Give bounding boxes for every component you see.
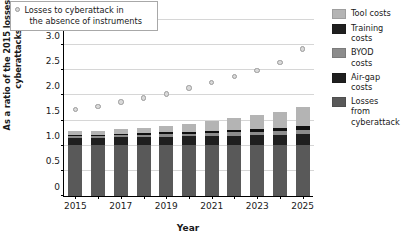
bar-segment-losses (273, 145, 287, 196)
scatter-point (232, 74, 237, 79)
legend-item: Tool costs (332, 8, 407, 19)
legend-label-line2: costs (351, 82, 372, 92)
scatter-point (118, 99, 123, 104)
chart-legend: Tool costsTrainingcostsBYODcostsAir-gapc… (332, 8, 407, 131)
bar-2018 (137, 128, 151, 196)
inline-legend-line2: the absence of instruments (29, 16, 142, 27)
legend-label-line1: BYOD (351, 47, 373, 57)
y-axis-tick-label: 2.5 (46, 56, 60, 66)
legend-swatch-icon (332, 24, 346, 34)
scatter-point (164, 91, 169, 96)
bar-2016 (91, 131, 105, 196)
bar-segment-airgap (68, 138, 82, 145)
x-axis-tick-mark (121, 196, 122, 199)
bar-2015 (68, 131, 82, 196)
legend-label-line2: costs (351, 33, 372, 43)
y-axis-tick-label: 0.5 (46, 156, 60, 166)
legend-item-label: Air-gapcosts (351, 72, 380, 92)
bar-segment-tool (205, 121, 219, 131)
bar-segment-airgap (273, 135, 287, 145)
bar-segment-losses (68, 145, 82, 196)
bar-segment-airgap (182, 136, 196, 145)
y-axis-tick-label: 2.0 (46, 81, 60, 91)
bar-segment-losses (114, 145, 128, 196)
bar-segment-airgap (227, 136, 241, 145)
x-axis-tick-mark (98, 196, 99, 199)
bar-segment-tool (250, 115, 264, 129)
legend-label-line3: cyberattack (351, 117, 400, 127)
bar-segment-airgap (296, 134, 310, 145)
legend-label-line2: costs (351, 58, 372, 68)
bar-segment-losses (91, 145, 105, 196)
bar-segment-losses (296, 145, 310, 196)
bar-segment-tool (227, 118, 241, 130)
legend-swatch-icon (332, 9, 346, 19)
y-axis-tick-mark (61, 69, 64, 70)
x-axis-title: Year (63, 223, 313, 233)
x-axis-tick-mark (166, 196, 167, 199)
x-axis-tick-mark (189, 196, 190, 199)
legend-item-label: Lossesfromcyberattack (351, 96, 400, 127)
x-axis-tick-mark (75, 196, 76, 199)
legend-item-label: Trainingcosts (351, 23, 383, 43)
y-axis-tick-label: 1.5 (46, 106, 60, 116)
scatter-point (300, 46, 305, 51)
legend-label-line1: Air-gap (351, 72, 380, 82)
legend-item: BYODcosts (332, 47, 407, 67)
legend-item: Trainingcosts (332, 23, 407, 43)
scatter-point (277, 60, 282, 65)
inline-legend-text: Losses to cyberattack in the absence of … (24, 5, 142, 26)
bar-segment-tool (296, 107, 310, 126)
y-axis-tick-label: 0 (54, 182, 60, 192)
legend-label-line1: Losses (351, 96, 378, 106)
legend-item: Air-gapcosts (332, 72, 407, 92)
plot-inner: 00.51.01.52.02.53.03.5201520172019202120… (64, 21, 313, 196)
x-axis-tick-label: 2017 (109, 201, 132, 211)
legend-label-line2: from (351, 106, 370, 116)
scatter-point (95, 104, 100, 109)
gridline (64, 94, 314, 95)
legend-label-line1: Tool costs (351, 8, 391, 18)
x-axis-tick-mark (144, 196, 145, 199)
x-axis-tick-label: 2025 (291, 201, 314, 211)
scatter-point (209, 80, 214, 85)
bar-2025 (296, 107, 310, 196)
bar-segment-losses (137, 145, 151, 196)
legend-item: Lossesfromcyberattack (332, 96, 407, 127)
y-axis-tick-label: 3.0 (46, 31, 60, 41)
stacked-bar-chart: As a ratio of the 2015 losses to cyberat… (0, 0, 407, 247)
x-axis-tick-mark (212, 196, 213, 199)
x-axis-tick-label: 2021 (200, 201, 223, 211)
bar-segment-airgap (91, 138, 105, 145)
bar-2020 (182, 124, 196, 196)
bar-2024 (273, 112, 287, 196)
y-axis-tick-mark (61, 94, 64, 95)
bar-2021 (205, 121, 219, 196)
y-axis-tick-mark (61, 145, 64, 146)
bar-segment-airgap (159, 137, 173, 145)
legend-item-label: BYODcosts (351, 47, 373, 67)
scatter-point (254, 68, 259, 73)
bar-segment-losses (205, 145, 219, 196)
x-axis-tick-mark (280, 196, 281, 199)
bar-2019 (159, 126, 173, 196)
bar-segment-tool (182, 124, 196, 132)
y-axis-tick-mark (61, 195, 64, 196)
inline-legend-line1: Losses to cyberattack in (24, 5, 123, 15)
bar-segment-airgap (137, 137, 151, 145)
x-axis-tick-mark (234, 196, 235, 199)
y-axis-tick-mark (61, 170, 64, 171)
y-axis-tick-mark (61, 120, 64, 121)
bar-segment-airgap (114, 137, 128, 145)
x-axis-tick-mark (257, 196, 258, 199)
x-axis-tick-label: 2023 (246, 201, 269, 211)
plot-area: 00.51.01.52.02.53.03.5201520172019202120… (63, 21, 313, 197)
bar-segment-airgap (250, 135, 264, 145)
bar-2017 (114, 129, 128, 196)
gridline (64, 69, 314, 70)
legend-swatch-icon (332, 73, 346, 83)
scatter-point (186, 85, 191, 90)
x-axis-tick-label: 2015 (64, 201, 87, 211)
y-axis-tick-mark (61, 44, 64, 45)
scatter-point (141, 95, 146, 100)
